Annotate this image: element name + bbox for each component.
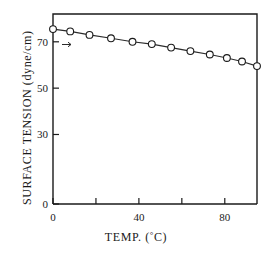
x-axis-title-tail: C) xyxy=(154,230,167,244)
y-axis-title: SURFACE TENSION (dyne/cm) xyxy=(20,30,35,205)
data-point-marker xyxy=(224,55,231,62)
data-point-marker xyxy=(129,38,136,45)
y-axis-ticks xyxy=(53,42,59,204)
data-point-marker xyxy=(148,41,155,48)
x-axis-title-text: TEMP. ( xyxy=(105,230,150,244)
x-tick-label: 80 xyxy=(219,212,230,223)
data-point-marker xyxy=(254,63,261,70)
chart-figure: 0305070 04080 TEMP. (°C) SURFACE TENSION… xyxy=(0,0,272,263)
data-point-marker xyxy=(86,32,93,39)
annotation-arrow xyxy=(62,42,71,47)
x-tick-label: 0 xyxy=(50,212,56,223)
data-markers xyxy=(50,26,261,70)
data-point-marker xyxy=(67,28,74,35)
data-point-marker xyxy=(239,58,246,65)
x-axis-ticks xyxy=(53,198,225,204)
data-series xyxy=(50,26,261,70)
data-point-marker xyxy=(168,44,175,51)
x-tick-label: 40 xyxy=(133,212,144,223)
data-point-marker xyxy=(187,48,194,55)
data-point-marker xyxy=(50,26,57,33)
data-point-marker xyxy=(108,35,115,42)
x-axis-title: TEMP. (°C) xyxy=(0,230,272,245)
data-point-marker xyxy=(206,51,213,58)
